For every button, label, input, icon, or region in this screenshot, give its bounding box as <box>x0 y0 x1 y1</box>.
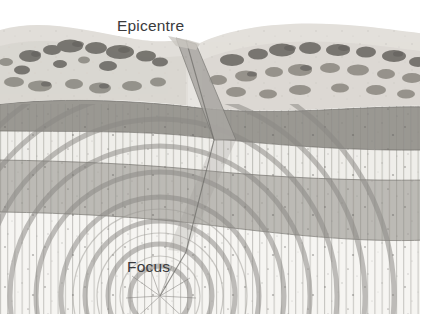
cross-section-artwork <box>0 0 427 328</box>
earthquake-cross-section-figure: Epicentre Focus <box>0 0 427 328</box>
bottom-margin <box>0 314 427 328</box>
epicentre-label: Epicentre <box>117 17 184 35</box>
focus-label-text: Focus <box>127 258 170 275</box>
diagram-canvas: Epicentre Focus <box>0 0 427 328</box>
top-margin <box>0 0 427 12</box>
focus-label: Focus <box>127 258 170 276</box>
right-margin <box>420 0 427 328</box>
